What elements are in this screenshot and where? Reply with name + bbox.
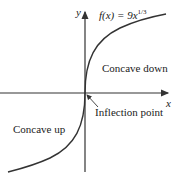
function-label: f(x) = 9x1/3: [99, 9, 147, 21]
function-exponent: 1/3: [138, 8, 147, 16]
graph: [0, 0, 183, 185]
inflection-point-label: Inflection point: [95, 107, 163, 118]
y-axis-label: y: [76, 7, 81, 18]
concave-down-label: Concave down: [102, 63, 168, 74]
function-label-base: f(x) = 9x: [99, 9, 138, 21]
x-axis-label: x: [166, 98, 171, 109]
concave-up-label: Concave up: [13, 124, 65, 135]
function-curve: [85, 14, 166, 93]
